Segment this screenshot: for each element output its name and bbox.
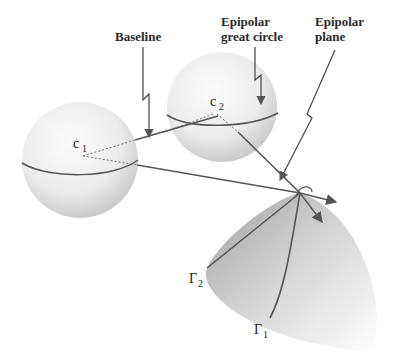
sphere-c1 xyxy=(22,102,138,218)
epipolar-diagram: Baseline Epipolar great circle Epipolar … xyxy=(0,0,400,362)
c1-subscript: 1 xyxy=(82,143,87,154)
c2-subscript: 2 xyxy=(219,101,224,112)
epipolar-plane-label-1: Epipolar xyxy=(315,14,364,29)
gamma2-subscript: 2 xyxy=(198,278,203,289)
gamma1-label: Γ xyxy=(254,322,262,337)
c2-label: c xyxy=(210,94,216,109)
surface xyxy=(206,193,377,352)
diagram-canvas: Baseline Epipolar great circle Epipolar … xyxy=(0,0,400,362)
epipolar-great-circle-label-1: Epipolar xyxy=(221,14,270,29)
epipolar-great-circle-label-2: great circle xyxy=(221,29,283,44)
epipolar-plane-pointer xyxy=(280,50,335,180)
c1-label: c xyxy=(73,136,79,151)
gamma1-subscript: 1 xyxy=(263,329,268,340)
gamma2-label: Γ xyxy=(189,271,197,286)
baseline-pointer xyxy=(143,47,149,137)
epipolar-plane-label-2: plane xyxy=(315,29,346,44)
baseline-label: Baseline xyxy=(115,29,161,44)
